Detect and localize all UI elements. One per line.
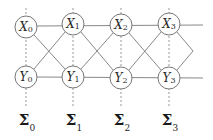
node-label-x0: X0	[15, 16, 37, 38]
node-label-y1: Y1	[62, 66, 84, 88]
node-index: 3	[171, 22, 176, 31]
node-symbol: Y	[66, 70, 74, 84]
node-symbol: Y	[19, 70, 27, 84]
node-index: 1	[74, 75, 79, 84]
node-index: 3	[170, 76, 175, 85]
node-symbol: X	[66, 17, 75, 31]
node-index: 0	[27, 75, 32, 84]
edge-right-wedge	[177, 32, 193, 70]
node-label-y2: Y2	[110, 67, 132, 89]
lattice-diagram: X0 X1 X2 X3 Y0 Y1 Y2 Y3 Σ0 Σ1 Σ2 Σ3	[0, 0, 213, 140]
node-index: 0	[28, 25, 33, 34]
sigma-index: 0	[29, 123, 35, 133]
sigma-label-2: Σ2	[109, 111, 135, 131]
node-symbol: X	[114, 18, 123, 32]
node-index: 2	[123, 23, 128, 32]
sigma-label-3: Σ3	[157, 111, 183, 131]
node-symbol: Y	[114, 71, 122, 85]
sigma-symbol: Σ	[162, 111, 173, 129]
sigma-symbol: Σ	[19, 111, 30, 129]
node-label-x3: X3	[158, 13, 180, 35]
node-symbol: Y	[162, 71, 170, 85]
node-label-x2: X2	[110, 14, 132, 36]
node-label-y3: Y3	[158, 67, 180, 89]
sigma-index: 1	[76, 123, 82, 133]
sigma-symbol: Σ	[114, 111, 125, 129]
node-index: 2	[122, 76, 127, 85]
sigma-label-0: Σ0	[14, 111, 40, 131]
sigma-label-1: Σ1	[61, 111, 87, 131]
node-index: 1	[75, 22, 80, 31]
node-symbol: X	[162, 17, 171, 31]
sigma-index: 2	[124, 123, 130, 133]
sigma-index: 3	[172, 123, 178, 133]
sigma-symbol: Σ	[66, 111, 77, 129]
node-label-x1: X1	[62, 13, 84, 35]
node-symbol: X	[19, 20, 28, 34]
node-label-y0: Y0	[15, 66, 37, 88]
